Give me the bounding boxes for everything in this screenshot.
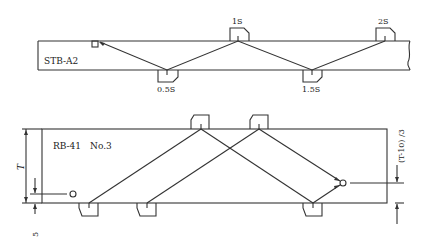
probe-0.5s xyxy=(158,70,178,82)
arrowhead-upper xyxy=(99,42,105,46)
diagram-canvas: STB-A2 0.5S 1S 1.5S 2S xyxy=(0,0,429,245)
dim-5-label: 5 xyxy=(31,232,40,237)
arrowhead-a xyxy=(334,185,340,189)
probe-top-1 xyxy=(191,115,209,129)
upper-diagram xyxy=(38,28,410,82)
probe-label-0.5s: 0.5S xyxy=(157,85,175,94)
probe-label-1s: 1S xyxy=(232,17,243,26)
rb-41-label: RB-41 No.3 xyxy=(53,141,112,151)
lower-diagram xyxy=(22,115,404,224)
reflector-square xyxy=(92,41,98,47)
beam-a2 xyxy=(201,129,313,203)
probe-1s xyxy=(230,28,249,41)
beam-b2 xyxy=(259,129,340,181)
stb-a2-label: STB-A2 xyxy=(44,56,78,66)
probe-label-1.5s: 1.5S xyxy=(302,85,320,94)
dim-T-label: T xyxy=(16,163,26,170)
probe-label-2s: 2S xyxy=(378,17,389,26)
stb-a2-block xyxy=(38,41,410,70)
beam-b1 xyxy=(147,129,259,203)
hole-left xyxy=(70,191,76,197)
hole-right xyxy=(340,180,346,186)
dim-hole-offset-label: (T-10) /3 xyxy=(397,129,406,163)
beam-path-upper xyxy=(100,41,385,70)
